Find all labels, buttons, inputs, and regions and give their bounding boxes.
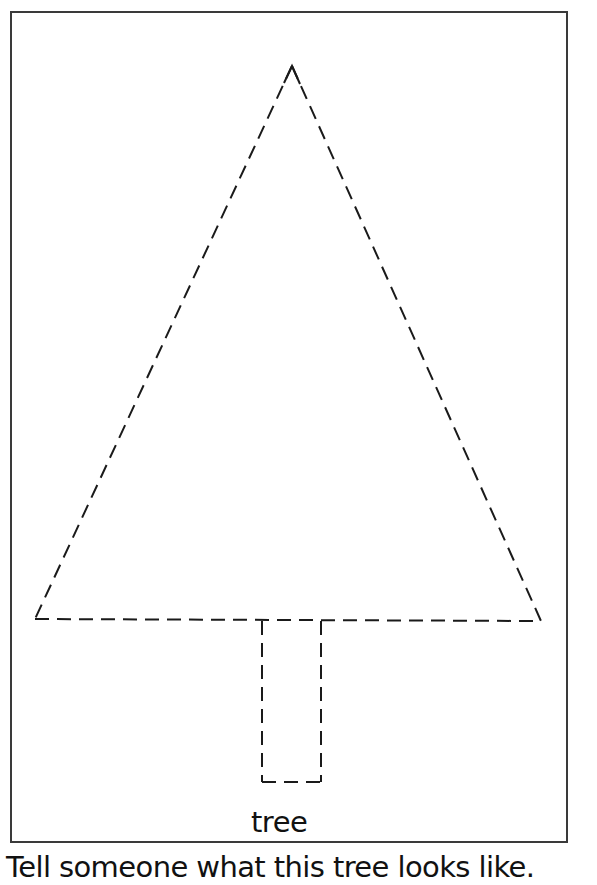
canopy-right-edge — [292, 66, 541, 621]
tree-outline-drawing — [0, 0, 597, 885]
instruction-text: Tell someone what this tree looks like. — [6, 849, 534, 885]
canopy-left-edge — [35, 66, 292, 619]
canopy-apex — [284, 66, 300, 84]
canopy-base — [35, 619, 541, 621]
word-label: tree — [251, 804, 307, 840]
